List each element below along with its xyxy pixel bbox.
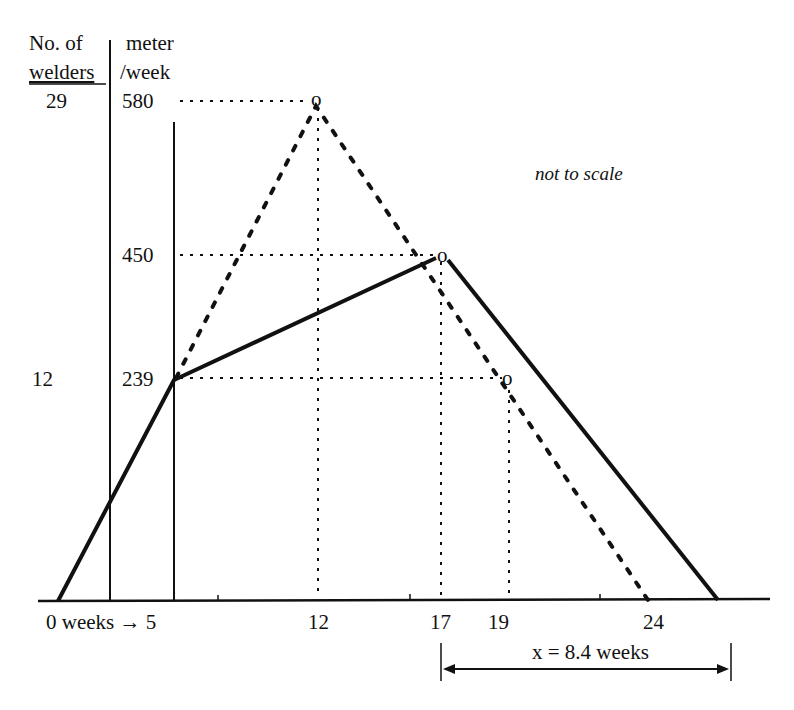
marker-239: o — [502, 366, 513, 390]
arrow-left-icon — [443, 664, 455, 674]
x-label-19: 19 — [488, 610, 509, 634]
marker-580: o — [311, 87, 322, 111]
guide-lines — [180, 101, 509, 598]
marker-450: o — [437, 243, 448, 267]
welders-axis-label-line2: welders — [29, 60, 94, 84]
welding-production-diagram: o o o No. of welders meter /week 29 12 5… — [0, 0, 794, 710]
actual-series-decline — [448, 260, 718, 600]
x-label-start: 0 weeks → 5 — [46, 610, 156, 634]
meter-axis-label-line2: /week — [120, 60, 171, 84]
dimension-label: x = 8.4 weeks — [532, 640, 649, 664]
meter-tick-239: 239 — [122, 367, 154, 391]
meter-tick-450: 450 — [122, 243, 154, 267]
x-label-12: 12 — [308, 610, 329, 634]
x-axis — [38, 599, 770, 601]
not-to-scale-note: not to scale — [535, 163, 623, 184]
welders-tick-29: 29 — [46, 89, 67, 113]
meter-axis-label-line1: meter — [126, 31, 174, 55]
welders-tick-12: 12 — [32, 367, 53, 391]
arrow-right-icon — [717, 664, 729, 674]
meter-tick-580: 580 — [122, 89, 154, 113]
welders-axis-label-line1: No. of — [29, 31, 83, 55]
x-label-17: 17 — [430, 610, 451, 634]
x-label-24: 24 — [643, 610, 665, 634]
actual-series-line — [58, 258, 436, 601]
axes — [38, 40, 770, 601]
